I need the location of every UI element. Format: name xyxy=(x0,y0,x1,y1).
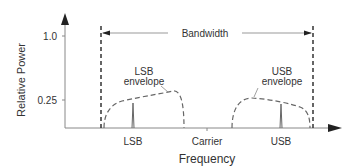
lsb-spike xyxy=(132,103,134,128)
usb-envelope-label-2: envelope xyxy=(262,76,303,87)
lsb-envelope: LSB envelope xyxy=(104,66,184,128)
x-tick-usb: USB xyxy=(271,136,292,147)
usb-spike xyxy=(280,104,282,128)
bandwidth-arrow: Bandwidth xyxy=(102,28,312,39)
x-axis-label: Frequency xyxy=(179,152,236,166)
bandwidth-left-arrow-icon xyxy=(102,31,110,36)
usb-envelope: USB envelope xyxy=(232,66,310,128)
ssb-spectrum-diagram: 1.0 0.25 Relative Power LSB Carrier USB … xyxy=(0,0,348,168)
x-tick-lsb: LSB xyxy=(124,136,143,147)
y-axis-arrow-icon xyxy=(61,13,69,25)
y-axis: 1.0 0.25 Relative Power xyxy=(15,13,69,128)
bandwidth-label: Bandwidth xyxy=(182,28,229,39)
lsb-envelope-label-2: envelope xyxy=(124,76,165,87)
y-tick-1: 1.0 xyxy=(43,31,57,42)
x-axis-arrow-icon xyxy=(328,124,342,132)
bandwidth-right-arrow-icon xyxy=(304,31,312,36)
x-tick-carrier: Carrier xyxy=(192,136,223,147)
y-tick-025: 0.25 xyxy=(38,95,58,106)
x-axis: LSB Carrier USB Frequency xyxy=(65,124,342,166)
y-axis-label: Relative Power xyxy=(15,43,27,117)
